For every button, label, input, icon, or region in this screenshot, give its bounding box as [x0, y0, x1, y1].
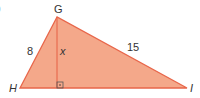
altitude-label: x — [59, 45, 66, 57]
triangle-ghi — [20, 17, 187, 88]
side-label-gi: 15 — [127, 41, 139, 53]
corner-fragment: ) — [0, 2, 1, 14]
vertex-label-i: I — [190, 82, 193, 94]
triangle-diagram: ) G H I 8 x 15 — [0, 0, 200, 98]
vertex-label-h: H — [9, 82, 17, 94]
vertex-label-g: G — [54, 3, 63, 15]
right-angle-dot — [59, 84, 61, 86]
side-label-gh: 8 — [27, 45, 33, 57]
